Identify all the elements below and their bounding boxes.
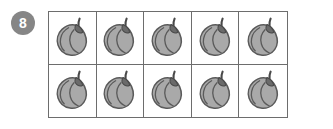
exercise-number-badge: 8: [11, 11, 35, 35]
grid-cell[interactable]: [49, 65, 97, 118]
grid-cell[interactable]: [97, 12, 145, 65]
pear-fruit-icon: [101, 70, 138, 112]
grid-cell[interactable]: [49, 12, 97, 65]
pear-fruit-icon: [149, 70, 186, 112]
pear-fruit-icon: [245, 17, 282, 59]
pear-fruit-icon: [54, 70, 91, 112]
pear-fruit-icon: [54, 17, 91, 59]
grid-cell[interactable]: [144, 12, 192, 65]
worksheet-exercise: 8: [0, 0, 333, 129]
pear-fruit-icon: [101, 17, 138, 59]
grid-cell[interactable]: [144, 65, 192, 118]
grid-cell[interactable]: [192, 12, 240, 65]
exercise-number-label: 8: [19, 16, 27, 30]
grid-cell[interactable]: [192, 65, 240, 118]
pear-fruit-icon: [197, 17, 234, 59]
pear-fruit-icon: [197, 70, 234, 112]
pear-fruit-icon: [149, 17, 186, 59]
pear-fruit-icon: [245, 70, 282, 112]
grid-cell[interactable]: [239, 65, 287, 118]
grid-cell[interactable]: [239, 12, 287, 65]
grid-cell[interactable]: [97, 65, 145, 118]
object-count-grid: [48, 11, 288, 118]
